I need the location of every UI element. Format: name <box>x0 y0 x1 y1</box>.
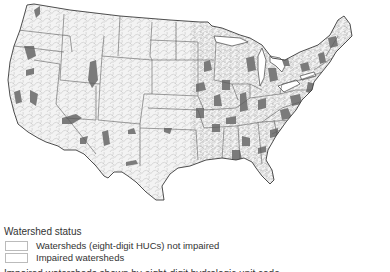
legend-swatch-impaired <box>5 253 28 263</box>
legend-swatch-not-impaired <box>5 241 28 251</box>
legend-label-impaired: Impaired watersheds <box>36 252 124 263</box>
legend-label-not-impaired: Watersheds (eight-digit HUCs) not impair… <box>36 240 219 251</box>
caption-cut-off: Impaired watersheds shown by eight-digit… <box>4 264 280 272</box>
us-watershed-map <box>0 0 390 230</box>
legend-item-not-impaired: Watersheds (eight-digit HUCs) not impair… <box>5 240 219 251</box>
legend-title: Watershed status <box>4 226 81 237</box>
legend-item-impaired: Impaired watersheds <box>5 252 124 263</box>
